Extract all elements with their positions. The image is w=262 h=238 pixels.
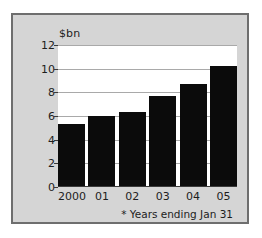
y-tick-label: 0	[17, 181, 55, 194]
x-tick-label: 05	[210, 190, 237, 206]
x-axis-ticks: 2000 01 02 03 04 05	[58, 190, 237, 206]
bar[interactable]	[180, 84, 207, 187]
x-tick-label: 2000	[58, 190, 85, 206]
bar[interactable]	[58, 124, 85, 187]
bar[interactable]	[149, 96, 176, 187]
y-tick-label: 2	[17, 157, 55, 170]
plot-area	[58, 45, 237, 187]
y-axis-label: $bn	[59, 27, 80, 40]
x-axis-line	[58, 186, 237, 187]
bar[interactable]	[88, 116, 115, 187]
y-tick-label: 10	[17, 62, 55, 75]
y-tick-label: 6	[17, 110, 55, 123]
bar[interactable]	[119, 112, 146, 187]
y-tick-mark	[54, 187, 58, 188]
x-tick-label: 04	[180, 190, 207, 206]
x-tick-label: 02	[119, 190, 146, 206]
y-axis-ticks: 12 10 8 6 4 2 0	[13, 45, 55, 187]
x-tick-label: 03	[149, 190, 176, 206]
chart-footnote: * Years ending Jan 31	[13, 208, 233, 220]
y-tick-label: 12	[17, 39, 55, 52]
y-tick-label: 4	[17, 133, 55, 146]
bar[interactable]	[210, 66, 237, 187]
bar-series	[58, 45, 237, 187]
y-tick-label: 8	[17, 86, 55, 99]
chart-panel: $bn 12 10 8 6 4 2 0	[11, 13, 249, 224]
x-tick-label: 01	[88, 190, 115, 206]
bar-chart-figure: $bn 12 10 8 6 4 2 0	[0, 0, 262, 238]
